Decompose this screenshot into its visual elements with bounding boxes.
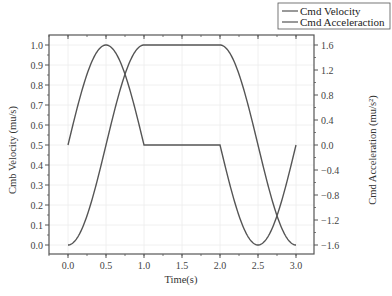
y-right-tick-label: 0.0 [321,140,334,151]
legend-label-acceleration: Cmd Acceleraction [300,16,385,28]
y-left-tick-label: 0.1 [31,220,44,231]
y-right-tick-label: −1.6 [321,240,339,251]
y-left-tick-label: 0.6 [31,120,44,131]
y-right-axis-ticks: 1.61.20.80.40.0−0.4−0.8−1.2−1.6 [314,40,339,251]
y-left-tick-label: 1.0 [31,40,44,51]
y-left-tick-label: 0.8 [31,80,44,91]
y-left-tick-label: 0.9 [31,60,44,71]
x-tick-label: 2.5 [252,260,265,271]
y-left-tick-label: 0.3 [31,180,44,191]
y-right-tick-label: 0.4 [321,115,334,126]
y-right-tick-label: 1.6 [321,40,334,51]
x-tick-label: 0.0 [62,260,75,271]
y-left-tick-label: 0.0 [31,240,44,251]
y-left-tick-label: 0.4 [31,160,44,171]
y-right-tick-label: −1.2 [321,215,339,226]
y-left-axis-ticks: 0.00.10.20.30.40.50.60.70.80.91.0 [31,40,50,251]
y-right-tick-label: 0.8 [321,90,334,101]
y-left-tick-label: 0.2 [31,200,44,211]
y-left-tick-label: 0.7 [31,100,44,111]
x-tick-label: 2.0 [214,260,227,271]
y-right-tick-label: 1.2 [321,65,334,76]
y-right-tick-label: −0.4 [321,165,339,176]
legend: Cmd Velocity Cmd Acceleraction [278,3,390,29]
x-tick-label: 1.5 [176,260,189,271]
y-right-axis-title: Cmd Acceleration (mu/s²) [367,95,379,205]
y-left-tick-label: 0.5 [31,140,44,151]
y-right-tick-label: −0.8 [321,190,339,201]
x-tick-label: 1.0 [138,260,151,271]
x-tick-label: 0.5 [100,260,113,271]
y-left-axis-title: Cmb Velocity (mu/s) [7,106,19,194]
chart-canvas: 0.00.51.01.52.02.53.0 0.00.10.20.30.40.5… [0,0,392,296]
x-tick-label: 3.0 [290,260,303,271]
x-axis-title: Time(s) [165,274,198,286]
x-axis-ticks: 0.00.51.01.52.02.53.0 [49,35,302,271]
